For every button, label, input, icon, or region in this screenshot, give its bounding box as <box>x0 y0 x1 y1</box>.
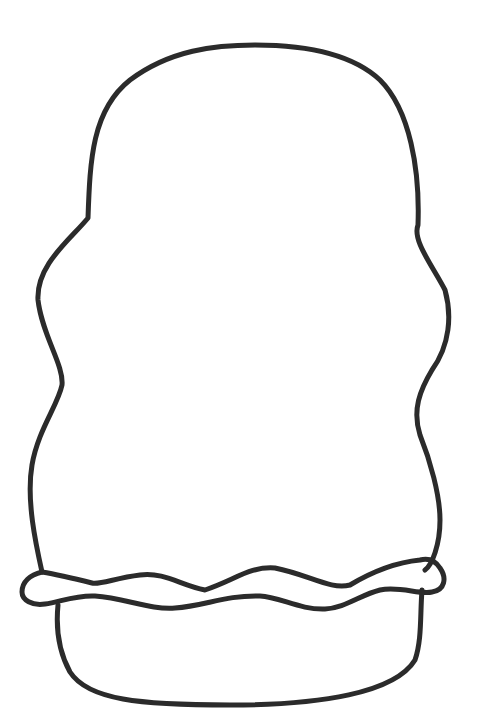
cupcake-outline-svg <box>0 0 479 724</box>
coloring-page-drawing: Cupcake outline coloring page <box>0 0 479 724</box>
paper-background <box>0 0 479 724</box>
